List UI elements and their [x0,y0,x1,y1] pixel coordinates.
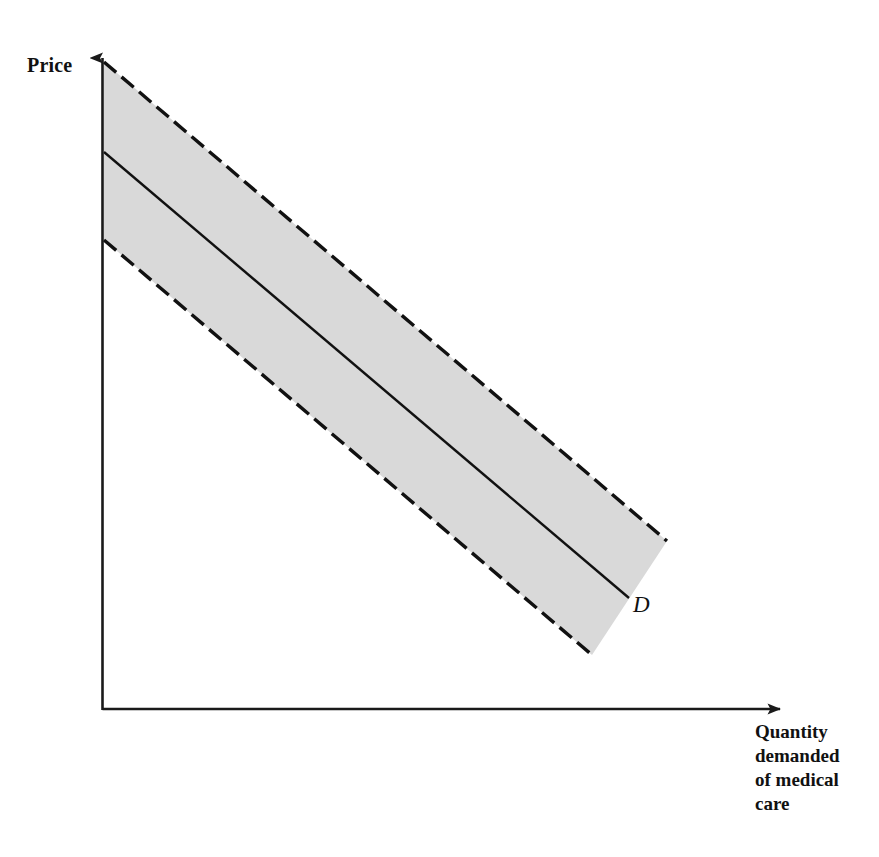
x-axis-label: Quantity demanded of medical care [755,720,839,816]
demand-curve-label: D [633,592,650,618]
demand-curve-line [104,152,629,598]
plot-area [0,0,879,857]
y-axis-label: Price [27,55,72,75]
demand-band-shading [104,62,667,655]
demand-curve-figure: Price Quantity demanded of medical care … [0,0,879,857]
